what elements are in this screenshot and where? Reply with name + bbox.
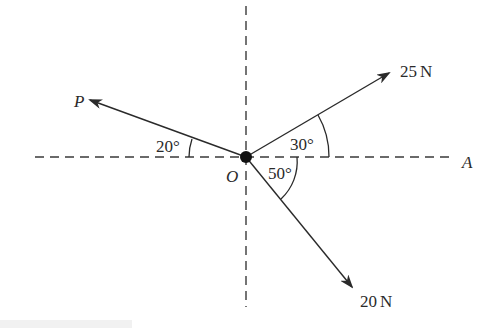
label-25n: 25N bbox=[400, 62, 432, 81]
label-p: P bbox=[73, 92, 84, 111]
label-20n-unit: N bbox=[380, 292, 392, 311]
label-25n-unit: N bbox=[420, 62, 432, 81]
label-25n-magnitude: 25 bbox=[400, 62, 417, 81]
angle-label-20: 20° bbox=[156, 137, 180, 156]
angle-label-50: 50° bbox=[268, 164, 292, 183]
angle-label-30: 30° bbox=[290, 135, 314, 154]
angle-arc-20 bbox=[189, 139, 192, 157]
label-20n: 20N bbox=[360, 292, 392, 311]
origin-point bbox=[240, 151, 252, 163]
label-o: O bbox=[226, 167, 238, 186]
scan-artifact bbox=[0, 320, 132, 328]
force-diagram: P O A 25N 20N 30° 50° 20° bbox=[0, 0, 492, 335]
force-25n-arrow bbox=[246, 73, 389, 157]
angle-arc-30 bbox=[318, 115, 329, 157]
force-20n-arrow bbox=[246, 157, 352, 287]
label-a: A bbox=[461, 153, 473, 172]
label-20n-magnitude: 20 bbox=[360, 292, 377, 311]
